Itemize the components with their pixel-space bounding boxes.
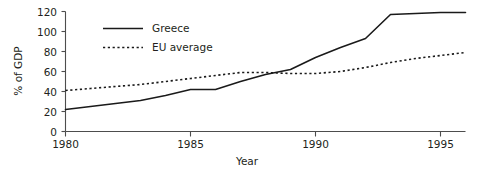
y-tick-label-80: 80 xyxy=(44,46,57,58)
y-tick-label-100: 100 xyxy=(37,26,57,38)
x-tick-label-1995: 1995 xyxy=(427,138,454,150)
y-tick-label-40: 40 xyxy=(44,86,57,98)
chart-legend: Greece EU average xyxy=(103,22,213,53)
x-axis-ticks xyxy=(66,132,441,137)
x-tick-label-1980: 1980 xyxy=(52,138,79,150)
series-line-eu-average xyxy=(66,53,466,91)
y-axis-title: % of GDP xyxy=(12,46,24,95)
y-tick-label-20: 20 xyxy=(44,106,57,118)
legend-label-greece: Greece xyxy=(152,22,189,34)
series-line-greece xyxy=(66,13,466,110)
y-tick-label-120: 120 xyxy=(37,6,57,18)
chart-container: 120 100 80 60 40 20 0 1980 1985 1990 199… xyxy=(0,0,485,176)
y-tick-label-60: 60 xyxy=(44,66,57,78)
legend-label-eu-average: EU average xyxy=(152,41,213,53)
x-axis-title: Year xyxy=(235,155,259,167)
line-chart: 120 100 80 60 40 20 0 1980 1985 1990 199… xyxy=(0,0,485,176)
y-axis-ticks xyxy=(62,12,66,132)
x-tick-label-1985: 1985 xyxy=(177,138,204,150)
x-tick-label-1990: 1990 xyxy=(302,138,329,150)
y-tick-label-0: 0 xyxy=(50,126,57,138)
